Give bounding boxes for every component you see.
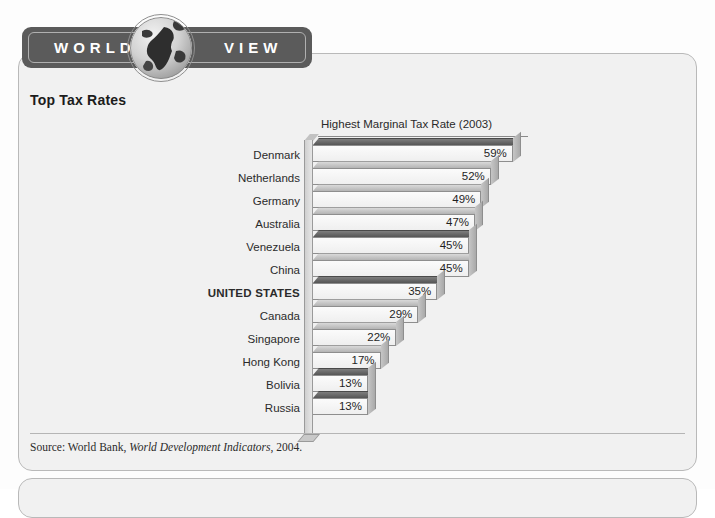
tax-rate-chart: Highest Marginal Tax Rate (2003) Denmark… <box>18 110 697 440</box>
bar-side-face <box>418 293 426 323</box>
category-label: Australia <box>118 213 300 236</box>
banner-word-world: WORLD <box>54 27 136 68</box>
bar-value-label: 47% <box>313 214 469 231</box>
bar-value-label: 45% <box>313 237 463 254</box>
bar-top-face <box>313 322 402 329</box>
bar-value-label: 13% <box>313 398 362 415</box>
page-title: Top Tax Rates <box>30 92 126 108</box>
bar-value-label: 13% <box>313 375 362 392</box>
category-label: Germany <box>118 190 300 213</box>
source-prefix: Source: World Bank, <box>30 441 129 453</box>
category-label: Denmark <box>118 144 300 167</box>
bar-top-face <box>313 276 443 283</box>
bar-top-face <box>313 207 481 214</box>
chart-title-rule <box>318 136 528 137</box>
category-label: Bolivia <box>118 374 300 397</box>
bar-value-label: 35% <box>313 283 431 300</box>
category-label: Venezuela <box>118 236 300 259</box>
secondary-panel <box>18 478 697 518</box>
bar-value-label: 17% <box>313 352 375 369</box>
category-axis-labels: DenmarkNetherlandsGermanyAustraliaVenezu… <box>118 144 300 420</box>
source-note: Source: World Bank, World Development In… <box>30 441 302 453</box>
bar-top-face <box>313 368 374 375</box>
bar-side-face <box>381 339 389 369</box>
bar-side-face <box>437 270 445 300</box>
category-label: Russia <box>118 397 300 420</box>
globe-ring <box>127 14 195 82</box>
chart-title: Highest Marginal Tax Rate (2003) <box>321 118 492 130</box>
bar-top-face <box>313 345 386 352</box>
bar-value-label: 49% <box>313 191 475 208</box>
bar-value-label: 22% <box>313 329 390 346</box>
category-label: Netherlands <box>118 167 300 190</box>
source-title: World Development Indicators <box>129 441 270 453</box>
banner-word-view: VIEW <box>224 27 282 68</box>
bar-side-face <box>396 316 404 346</box>
bar-side-face <box>491 155 499 185</box>
bar-series: 59%52%49%47%45%45%35%29%22%17%13%13% <box>313 144 693 434</box>
bar-top-face <box>313 184 487 191</box>
bar-top-face <box>313 230 475 237</box>
source-rule <box>30 433 685 434</box>
bar-value-label: 52% <box>313 168 485 185</box>
bar-top-face <box>313 161 497 168</box>
category-label: Singapore <box>118 328 300 351</box>
bar-value-label: 59% <box>313 145 507 162</box>
category-label: Canada <box>118 305 300 328</box>
bar-side-face <box>368 385 376 415</box>
bar-top-face <box>313 253 475 260</box>
category-label: Hong Kong <box>118 351 300 374</box>
bar-top-face <box>313 299 424 306</box>
bar-top-face <box>313 138 519 145</box>
bar-row: 13% <box>313 397 693 420</box>
axis-wall <box>304 140 313 434</box>
bar-side-face <box>469 247 477 277</box>
category-label: China <box>118 259 300 282</box>
globe-icon <box>127 14 195 82</box>
bar-top-face <box>313 391 374 398</box>
bar-side-face <box>513 132 521 162</box>
category-label: UNITED STATES <box>118 282 300 305</box>
source-suffix: , 2004. <box>271 441 303 453</box>
